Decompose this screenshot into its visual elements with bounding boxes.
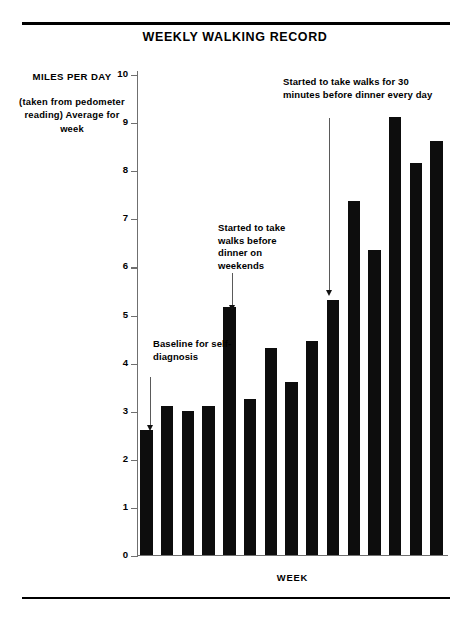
chart-page: WEEKLY WALKING RECORD MILES PER DAY (tak… <box>0 0 470 626</box>
bar <box>182 411 194 555</box>
y-axis-tick-label: 2 <box>111 453 128 464</box>
y-axis-note: (taken from pedometer reading) Average f… <box>18 95 126 136</box>
top-divider <box>22 22 450 25</box>
annotation-weekend-walks: Started to take walks before dinner on w… <box>218 222 304 272</box>
y-axis-tick-label: 6 <box>111 260 128 271</box>
y-axis-title-block: MILES PER DAY (taken from pedometer read… <box>18 70 126 135</box>
bar <box>306 341 318 555</box>
y-axis-tick-label: 4 <box>111 357 128 368</box>
bar <box>368 250 380 555</box>
bottom-divider <box>22 597 450 599</box>
y-axis-tick-label: 1 <box>111 501 128 512</box>
bar <box>161 406 173 555</box>
bar-series: 123456789101112131415 <box>137 74 448 555</box>
plot-area: 012345678910 123456789101112131415 <box>137 75 450 556</box>
y-axis-tick-label: 10 <box>111 68 128 79</box>
y-axis-title: MILES PER DAY <box>18 70 126 84</box>
annotation-arrow-2 <box>228 273 237 313</box>
y-axis-tick-label: 5 <box>111 309 128 320</box>
bar <box>244 399 256 555</box>
annotation-daily-walks: Started to take walks for 30 minutes bef… <box>283 76 435 101</box>
bar <box>348 201 360 555</box>
y-axis-tick <box>131 556 138 557</box>
y-axis-tick-label: 8 <box>111 164 128 175</box>
annotation-arrow-1 <box>146 377 155 433</box>
bar <box>389 117 401 555</box>
y-axis-tick-label: 9 <box>111 116 128 127</box>
y-axis-tick-label: 0 <box>111 549 128 560</box>
y-axis-tick-label: 3 <box>111 405 128 416</box>
bar <box>265 348 277 555</box>
page-title: WEEKLY WALKING RECORD <box>0 30 470 44</box>
bar <box>430 141 442 555</box>
y-axis-tick-label: 7 <box>111 212 128 223</box>
bar <box>410 163 422 555</box>
x-axis-title: WEEK <box>137 572 448 583</box>
bar <box>327 300 339 555</box>
annotation-baseline: Baseline for self-diagnosis <box>153 338 241 363</box>
bar <box>140 430 152 555</box>
bar <box>285 382 297 555</box>
annotation-arrow-3 <box>325 118 334 298</box>
bar <box>202 406 214 555</box>
